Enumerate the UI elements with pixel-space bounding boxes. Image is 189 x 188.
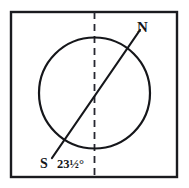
tilt-angle-label: 23½° (57, 157, 84, 171)
axial-tilt-diagram: N S 23½° (0, 0, 189, 188)
diagram-root: N S 23½° (0, 0, 189, 188)
south-pole-label: S (40, 156, 48, 171)
north-pole-label: N (137, 19, 148, 35)
